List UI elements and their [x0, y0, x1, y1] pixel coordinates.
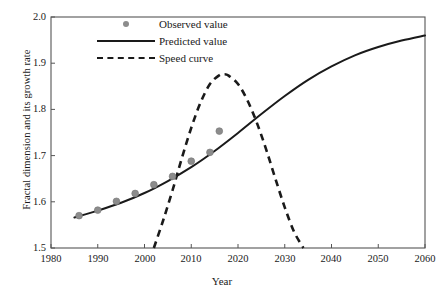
observed-points [76, 128, 223, 219]
predicted-curve [74, 35, 425, 217]
speed-curve [154, 74, 304, 248]
chart-figure: Fractal dimension and its growth rate Ye… [0, 0, 444, 294]
plot-area [0, 0, 444, 294]
